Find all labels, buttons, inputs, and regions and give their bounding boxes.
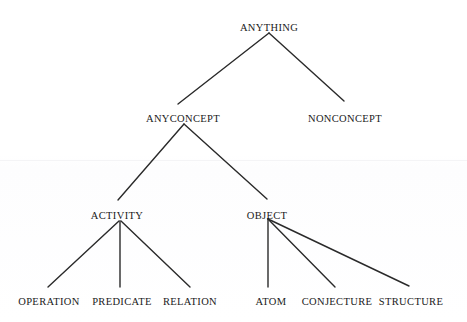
edge-activity-operation bbox=[48, 221, 119, 287]
tree-node-operation: OPERATION bbox=[18, 296, 80, 307]
tree-node-activity: ACTIVITY bbox=[91, 210, 143, 221]
tree-node-anyconcept: ANYCONCEPT bbox=[146, 113, 220, 124]
edge-object-conjecture bbox=[268, 219, 335, 287]
tree-edges-layer bbox=[0, 0, 467, 322]
tree-node-structure: STRUCTURE bbox=[379, 296, 443, 307]
edge-anything-anyconcept bbox=[178, 33, 269, 104]
tree-node-atom: ATOM bbox=[256, 296, 287, 307]
tree-node-nonconcept: NONCONCEPT bbox=[308, 113, 382, 124]
edge-anyconcept-activity bbox=[118, 124, 184, 200]
tree-node-object: OBJECT bbox=[247, 210, 288, 221]
tree-node-conjecture: CONJECTURE bbox=[302, 296, 373, 307]
edge-anyconcept-object bbox=[184, 124, 267, 199]
taxonomy-tree-diagram: ANYTHINGANYCONCEPTNONCONCEPTACTIVITYOBJE… bbox=[0, 0, 467, 322]
edge-anything-nonconcept bbox=[269, 33, 344, 101]
edge-object-structure bbox=[268, 219, 409, 286]
edge-activity-relation bbox=[121, 221, 190, 287]
tree-node-relation: RELATION bbox=[163, 296, 217, 307]
tree-node-anything: ANYTHING bbox=[240, 22, 298, 33]
tree-node-predicate: PREDICATE bbox=[92, 296, 152, 307]
